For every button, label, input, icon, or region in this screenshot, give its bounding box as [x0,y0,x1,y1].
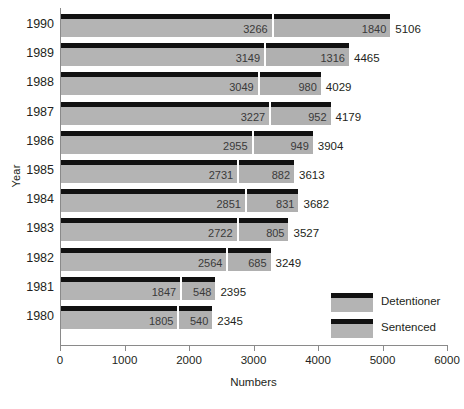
bar-segment-sentenced: 1840 [274,14,391,37]
bar-value-label: 1847 [152,286,176,298]
bar-segment-detentioner: 2564 [61,248,226,271]
x-axis-tick-label: 5000 [370,354,396,366]
legend-swatch [331,293,373,312]
bar-value-label: 2851 [216,198,240,210]
y-axis-tick-label: 1986 [2,134,54,148]
bar-segment-detentioner: 3227 [61,102,269,125]
bar-total-label: 3527 [293,227,319,239]
table-row: 198018055402345 [60,306,211,329]
bar-total-label: 2395 [220,286,246,298]
bar-segment-sentenced: 1316 [266,43,349,66]
bar-value-label: 952 [308,111,326,123]
stacked-bar-chart: Year 19903266184051061989314913164465198… [0,0,464,409]
table-row: 1990326618405106 [60,14,389,37]
x-axis-tick-label: 3000 [241,354,267,366]
bar-segment-detentioner: 1805 [61,306,177,329]
table-row: 198629559493904 [60,131,312,154]
bar-total-label: 3904 [318,140,344,152]
bar-value-label: 3227 [241,111,265,123]
x-axis-tick [383,345,384,351]
x-axis-tick [254,345,255,351]
bar-value-label: 2731 [209,169,233,181]
bar-segment-detentioner: 1847 [61,277,180,300]
bar-value-label: 3049 [229,81,253,93]
bar-segment-sentenced: 805 [239,218,289,241]
bar-value-label: 3266 [243,23,267,35]
bar-segment-detentioner: 2955 [61,131,252,154]
bar-segment-detentioner: 3266 [61,14,272,37]
bar-value-label: 1805 [149,315,173,327]
bar-segment-detentioner: 3149 [61,43,264,66]
bar-segment-detentioner: 3049 [61,72,258,95]
legend-label: Sentenced [381,321,436,333]
x-axis-tick-label: 2000 [176,354,202,366]
bar-segment-detentioner: 2851 [61,189,245,212]
legend-swatch [331,319,373,338]
bar-segment-sentenced: 952 [271,102,330,125]
bar-segment-sentenced: 882 [239,160,294,183]
table-row: 198527318823613 [60,160,293,183]
y-axis-tick-label: 1989 [2,46,54,60]
bar-value-label: 3149 [236,52,260,64]
y-axis-tick-label: 1980 [2,309,54,323]
bar-segment-sentenced: 685 [228,248,270,271]
table-row: 198327228053527 [60,218,287,241]
table-row: 198830499804029 [60,72,320,95]
bar-value-label: 540 [190,315,208,327]
table-row: 198732279524179 [60,102,330,125]
bar-total-label: 4029 [326,81,352,93]
table-row: 198118475482395 [60,277,214,300]
bar-value-label: 2722 [208,227,232,239]
y-axis-tick-label: 1988 [2,75,54,89]
bar-value-label: 831 [276,198,294,210]
bar-total-label: 2345 [217,315,243,327]
bar-segment-detentioner: 2722 [61,218,237,241]
bar-segment-sentenced: 540 [179,306,212,329]
x-axis-tick [447,345,448,351]
x-axis-tick-label: 6000 [434,354,460,366]
y-axis-tick-label: 1984 [2,192,54,206]
x-axis-tick [60,345,61,351]
x-axis-tick [189,345,190,351]
legend-label: Detentioner [381,295,440,307]
x-axis-tick [125,345,126,351]
bar-value-label: 980 [299,81,317,93]
y-axis-tick-label: 1987 [2,105,54,119]
x-axis-tick-label: 0 [57,354,63,366]
bar-total-label: 3249 [276,257,302,269]
table-row: 198428518313682 [60,189,297,212]
bar-segment-sentenced: 980 [260,72,321,95]
bar-segment-sentenced: 831 [247,189,299,212]
bar-segment-sentenced: 949 [254,131,313,154]
bar-value-label: 882 [272,169,290,181]
x-axis-title: Numbers [60,376,447,388]
bar-value-label: 949 [290,140,308,152]
bar-total-label: 5106 [395,23,421,35]
bar-segment-sentenced: 548 [182,277,215,300]
bar-value-label: 805 [266,227,284,239]
table-row: 1989314913164465 [60,43,348,66]
bar-value-label: 548 [193,286,211,298]
bar-total-label: 4179 [336,111,362,123]
bar-total-label: 4465 [354,52,380,64]
x-axis-tick-label: 1000 [112,354,138,366]
x-axis-tick-label: 4000 [305,354,331,366]
bar-value-label: 2955 [223,140,247,152]
bar-value-label: 685 [248,257,266,269]
bar-value-label: 1840 [362,23,386,35]
bar-value-label: 1316 [321,52,345,64]
bar-value-label: 2564 [198,257,222,269]
y-axis-tick-label: 1985 [2,163,54,177]
bar-total-label: 3613 [299,169,325,181]
y-axis-tick-label: 1981 [2,280,54,294]
y-axis-tick-label: 1982 [2,251,54,265]
bar-total-label: 3682 [303,198,329,210]
bar-segment-detentioner: 2731 [61,160,237,183]
x-axis-tick [318,345,319,351]
y-axis-tick-label: 1983 [2,221,54,235]
table-row: 198225646853249 [60,248,270,271]
y-axis-tick-label: 1990 [2,17,54,31]
